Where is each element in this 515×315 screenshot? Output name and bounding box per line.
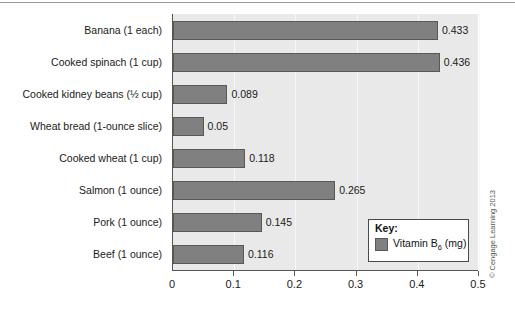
bar-row: 0.118 — [173, 142, 478, 174]
legend: Key: Vitamin B6 (mg) — [368, 219, 469, 262]
bar-row: 0.433 — [173, 14, 478, 46]
x-axis-tick — [233, 271, 234, 276]
x-axis-tick — [417, 271, 418, 276]
category-row: Wheat bread (1-ounce slice) — [0, 110, 168, 142]
category-label: Beef (1 ounce) — [93, 249, 162, 260]
x-axis-line — [172, 270, 478, 271]
bar-row: 0.265 — [173, 174, 478, 206]
category-label: Wheat bread (1-ounce slice) — [30, 121, 162, 132]
gridline — [479, 14, 480, 270]
bar-value-label: 0.116 — [248, 249, 274, 260]
bar — [173, 181, 335, 200]
bar-value-label: 0.118 — [249, 153, 275, 164]
bar-value-label: 0.436 — [444, 57, 470, 68]
category-row: Salmon (1 ounce) — [0, 174, 168, 206]
category-axis: Banana (1 each) Cooked spinach (1 cup) C… — [0, 14, 168, 270]
x-axis-tick-label: 0.1 — [226, 279, 241, 290]
x-axis-tick — [356, 271, 357, 276]
legend-entry: Vitamin B6 (mg) — [375, 238, 468, 252]
legend-swatch — [375, 238, 388, 251]
category-row: Cooked kidney beans (½ cup) — [0, 78, 168, 110]
bar-value-label: 0.265 — [339, 185, 365, 196]
bar-row: 0.05 — [173, 110, 478, 142]
category-row: Cooked spinach (1 cup) — [0, 46, 168, 78]
bar-row: 0.436 — [173, 46, 478, 78]
category-label: Banana (1 each) — [84, 25, 162, 36]
category-label: Cooked wheat (1 cup) — [59, 153, 162, 164]
x-axis-tick — [478, 271, 479, 276]
legend-label-main: Vitamin B — [393, 237, 438, 249]
bar — [173, 245, 244, 264]
bar-chart-figure: Banana (1 each) Cooked spinach (1 cup) C… — [0, 0, 515, 315]
x-axis-tick-label: 0.3 — [348, 279, 363, 290]
x-axis-tick-label: 0.4 — [409, 279, 424, 290]
x-axis-tick — [294, 271, 295, 276]
bar — [173, 149, 245, 168]
category-label: Salmon (1 ounce) — [79, 185, 162, 196]
bar — [173, 213, 262, 232]
category-label: Cooked spinach (1 cup) — [51, 57, 162, 68]
category-row: Cooked wheat (1 cup) — [0, 142, 168, 174]
x-axis-tick-label: 0 — [169, 279, 175, 290]
bar-value-label: 0.089 — [231, 89, 257, 100]
bar-row: 0.089 — [173, 78, 478, 110]
category-row: Banana (1 each) — [0, 14, 168, 46]
bar-value-label: 0.05 — [208, 121, 228, 132]
bar — [173, 53, 440, 72]
bar-value-label: 0.145 — [266, 217, 292, 228]
category-row: Beef (1 ounce) — [0, 238, 168, 270]
legend-title: Key: — [375, 223, 468, 235]
bar-value-label: 0.433 — [442, 25, 468, 36]
x-axis-tick-label: 0.5 — [470, 279, 485, 290]
category-label: Cooked kidney beans (½ cup) — [23, 89, 163, 100]
bar — [173, 21, 438, 40]
copyright-credit: © Cengage Learning 2013 — [489, 190, 497, 278]
top-divider-rule — [0, 2, 515, 3]
x-axis-tick-label: 0.2 — [287, 279, 302, 290]
bar — [173, 85, 227, 104]
legend-label-unit: (mg) — [442, 237, 467, 249]
category-label: Pork (1 ounce) — [93, 217, 162, 228]
category-row: Pork (1 ounce) — [0, 206, 168, 238]
bar — [173, 117, 204, 136]
legend-entry-label: Vitamin B6 (mg) — [393, 238, 466, 252]
